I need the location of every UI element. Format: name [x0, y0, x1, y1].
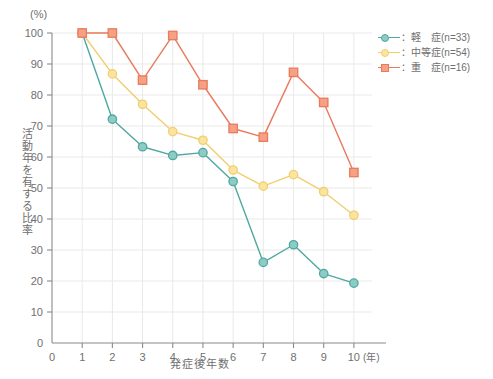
legend-marker-moderate-icon	[378, 47, 400, 59]
y-axis-unit-label: (%)	[30, 8, 47, 20]
legend-label-moderate: ：中等症(n=54)	[400, 45, 470, 60]
legend-item-mild[interactable]: ：軽 症(n=33)	[378, 30, 470, 45]
svg-text:80: 80	[31, 89, 43, 101]
chart-legend: ：軽 症(n=33) ：中等症(n=54) ：重 症(n=16)	[378, 30, 470, 75]
y-axis-title: 活動年を有する比率	[18, 128, 34, 236]
x-axis-title: 発症後年数	[0, 355, 400, 371]
svg-text:90: 90	[31, 58, 43, 70]
svg-text:0: 0	[37, 337, 43, 349]
legend-item-severe[interactable]: ：重 症(n=16)	[378, 60, 470, 75]
legend-label-mild: ：軽 症(n=33)	[400, 30, 470, 45]
svg-text:20: 20	[31, 275, 43, 287]
legend-marker-severe-icon	[378, 62, 400, 74]
svg-text:100: 100	[25, 27, 43, 39]
legend-label-severe: ：重 症(n=16)	[400, 60, 470, 75]
chart-container: (%) 活動年を有する比率 01020304050607080901000123…	[0, 0, 493, 379]
legend-marker-mild-icon	[378, 32, 400, 44]
svg-text:10: 10	[31, 306, 43, 318]
legend-item-moderate[interactable]: ：中等症(n=54)	[378, 45, 470, 60]
svg-text:30: 30	[31, 244, 43, 256]
